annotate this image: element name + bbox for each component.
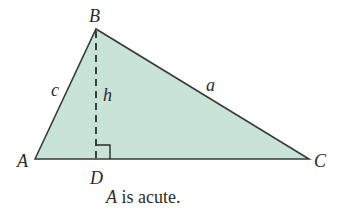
vertex-label-d: D [89,168,103,188]
vertex-label-b: B [89,6,100,26]
vertex-label-a: A [16,151,29,171]
side-label-c: c [51,80,59,100]
caption: A is acute. [105,187,180,207]
altitude-label-h: h [103,85,112,105]
vertex-label-c: C [314,151,327,171]
triangle-diagram: B A C D c a h A is acute. [0,0,353,218]
side-label-a: a [206,75,215,95]
triangle-abc [35,29,309,159]
caption-text: is acute. [117,187,180,207]
